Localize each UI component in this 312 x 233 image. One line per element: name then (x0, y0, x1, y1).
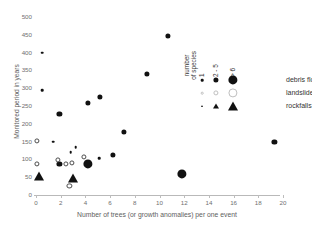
y-tick-text: 0 (6, 192, 32, 198)
x-tick-label: 10 (150, 200, 170, 206)
x-tick-label: 16 (224, 200, 244, 206)
legend-marker (213, 90, 218, 95)
data-point (98, 94, 103, 99)
legend-size-label: 1 (198, 73, 205, 77)
y-tick-text: 50 (6, 174, 32, 180)
data-point (166, 33, 171, 38)
legend-marker (213, 104, 219, 109)
x-tick-mark (85, 195, 86, 198)
legend-marker (213, 77, 218, 82)
data-point (272, 139, 277, 144)
legend: number of species 12 - 5> 6 debris flows… (178, 32, 308, 110)
legend-marker (228, 102, 238, 111)
x-tick-mark (36, 195, 37, 198)
data-point (35, 138, 40, 143)
legend-size-label: 2 - 5 (212, 64, 219, 77)
x-tick-label: 14 (199, 200, 219, 206)
data-point (69, 160, 74, 165)
x-tick-mark (209, 195, 210, 198)
data-point (121, 129, 126, 134)
x-tick-label: 18 (248, 200, 268, 206)
y-tick-label: 500 (6, 14, 32, 20)
legend-marker (201, 105, 203, 107)
x-tick-label: 12 (174, 200, 194, 206)
data-point (67, 184, 72, 189)
y-tick-label: 450 (6, 32, 32, 38)
legend-marker (201, 79, 204, 82)
x-tick-mark (258, 195, 259, 198)
data-point (68, 173, 78, 182)
legend-marker (228, 88, 237, 97)
x-tick-mark (283, 195, 284, 198)
x-tick-label: 8 (125, 200, 145, 206)
data-point (41, 51, 44, 54)
data-point (34, 172, 44, 181)
data-point (35, 161, 40, 166)
legend-series-label: landslides (286, 89, 312, 97)
x-tick-label: 20 (273, 200, 293, 206)
x-tick-mark (234, 195, 235, 198)
legend-marker (228, 75, 237, 84)
y-tick-label: 50 (6, 174, 32, 180)
y-axis-title: Monitored period in years (13, 42, 20, 162)
x-tick-mark (61, 195, 62, 198)
x-tick-label: 0 (26, 200, 46, 206)
data-point (41, 89, 44, 92)
y-tick-label: 0 (6, 192, 32, 198)
scatter-chart-figure: 050100150200250300350400450500 024681012… (0, 0, 312, 233)
data-point (63, 161, 68, 166)
data-point (177, 169, 186, 178)
data-point (85, 101, 90, 106)
data-point (145, 71, 150, 76)
x-tick-label: 2 (51, 200, 71, 206)
x-tick-label: 4 (75, 200, 95, 206)
legend-size-title: number of species (183, 37, 198, 93)
data-point (69, 151, 72, 154)
x-tick-mark (184, 195, 185, 198)
data-point (57, 111, 62, 116)
x-tick-mark (110, 195, 111, 198)
y-tick-text: 450 (6, 32, 32, 38)
legend-series-label: rockfalls (286, 102, 312, 110)
x-axis-line (34, 195, 280, 196)
data-point (52, 140, 55, 143)
x-axis-title: Number of trees (or growth anomalies) pe… (34, 211, 280, 218)
data-point (110, 153, 115, 158)
data-point (83, 159, 92, 168)
y-tick-text: 500 (6, 14, 32, 20)
x-tick-mark (160, 195, 161, 198)
data-point (98, 157, 101, 160)
x-tick-label: 6 (100, 200, 120, 206)
data-point (74, 146, 77, 149)
legend-marker (201, 92, 204, 95)
legend-series-label: debris flows (286, 76, 312, 84)
x-tick-mark (135, 195, 136, 198)
